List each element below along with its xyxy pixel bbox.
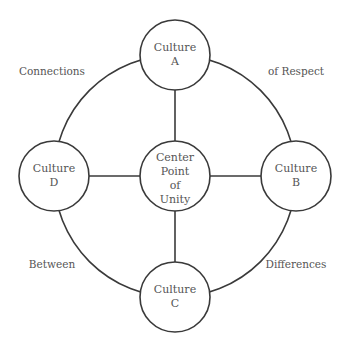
center-label-line: of: [170, 179, 182, 192]
center-label-line: Point: [161, 165, 190, 178]
node-culture-c: Culture C: [140, 262, 210, 332]
node-label-line: Culture: [275, 162, 317, 175]
quadrant-label-top-right: of Respect: [268, 65, 325, 77]
node-label-line: C: [171, 297, 179, 310]
node-culture-a: Culture A: [140, 20, 210, 90]
quadrant-label-bottom-right: Differences: [266, 258, 327, 270]
node-label-line: B: [292, 176, 300, 189]
node-culture-b: Culture B: [261, 141, 331, 211]
node-culture-d: Culture D: [19, 141, 89, 211]
node-label-line: Culture: [154, 283, 196, 296]
center-label-line: Center: [156, 151, 195, 164]
node-label-line: Culture: [33, 162, 75, 175]
quadrant-label-top-left: Connections: [19, 65, 85, 77]
unity-diagram: Culture A Culture B Culture C Culture D …: [0, 0, 347, 351]
node-label-line: A: [170, 55, 180, 68]
node-label-line: D: [50, 176, 59, 189]
center-node-unity: Center Point of Unity: [140, 141, 210, 211]
quadrant-label-bottom-left: Between: [29, 258, 76, 270]
node-label-line: Culture: [154, 41, 196, 54]
center-label-line: Unity: [160, 193, 191, 206]
